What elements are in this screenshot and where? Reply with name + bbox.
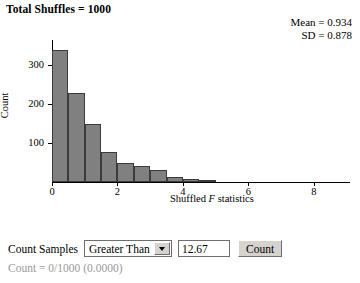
histogram-bar — [134, 166, 150, 182]
count-button-label: Count — [246, 243, 274, 255]
count-controls: Count Samples Greater Than 12.67 Count — [8, 240, 282, 257]
histogram-bar — [199, 180, 215, 182]
x-tick-label: 2 — [107, 186, 127, 197]
histogram-bar — [167, 177, 183, 182]
histogram-bar — [85, 124, 101, 182]
count-samples-label: Count Samples — [8, 243, 78, 255]
y-axis-label: Count — [0, 93, 10, 119]
histogram-plot: Count Shuffled F statistics 100200300 02… — [0, 0, 360, 205]
x-tick-label: 0 — [42, 186, 62, 197]
histogram-bar — [117, 163, 133, 182]
histogram-bar — [101, 152, 117, 182]
histogram-bar — [183, 179, 199, 182]
chevron-down-icon[interactable] — [154, 242, 170, 255]
direction-select[interactable]: Greater Than — [84, 240, 172, 257]
x-axis-line — [52, 182, 350, 183]
y-tick-label: 200 — [18, 98, 44, 109]
y-tick-label: 300 — [18, 59, 44, 70]
histogram-bar — [68, 93, 84, 182]
count-button[interactable]: Count — [238, 240, 282, 257]
x-tick-label: 6 — [238, 186, 258, 197]
y-tick-label: 100 — [18, 137, 44, 148]
count-result: Count = 0/1000 (0.0000) — [8, 262, 122, 274]
threshold-input[interactable]: 12.67 — [178, 240, 230, 257]
direction-select-value: Greater Than — [89, 243, 150, 255]
x-tick-label: 8 — [304, 186, 324, 197]
x-tick-label: 4 — [173, 186, 193, 197]
applet-root: Total Shuffles = 1000 Mean = 0.934 SD = … — [0, 0, 360, 283]
threshold-input-value: 12.67 — [182, 243, 208, 255]
histogram-bar — [150, 170, 166, 182]
histogram-bars — [52, 40, 350, 182]
histogram-bar — [52, 50, 68, 182]
